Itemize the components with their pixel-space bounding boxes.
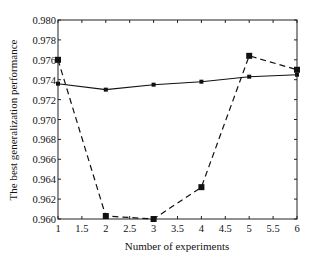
y-tick-label: 0.966 [32,154,56,165]
x-tick-label: 1.5 [75,223,88,234]
x-ticks: 11.522.533.544.555.56 [55,20,299,234]
dashed-series-point [151,216,157,222]
x-tick-label: 2 [103,223,108,234]
x-tick-label: 5 [247,223,252,234]
x-tick-label: 5.5 [267,223,280,234]
solid-series-point [104,88,108,92]
plot-frame [58,20,297,219]
x-tick-label: 4.5 [219,223,232,234]
y-axis-title: The best generalization performance [7,39,19,200]
solid-series-point [56,82,60,86]
dashed-series-point [246,53,252,59]
dashed-series-line [58,56,297,219]
x-tick-label: 1 [55,223,60,234]
y-tick-label: 0.978 [32,35,56,46]
y-tick-label: 0.974 [32,75,56,86]
dashed-series-point [198,184,204,190]
x-tick-label: 6 [294,223,299,234]
x-tick-label: 2.5 [123,223,136,234]
x-tick-label: 3.5 [171,223,184,234]
y-tick-label: 0.972 [32,95,56,106]
dashed-series-point [103,213,109,219]
axes [58,20,297,219]
x-tick-label: 4 [199,223,205,234]
solid-series-point [199,80,203,84]
series-group [55,53,300,222]
y-tick-label: 0.968 [32,134,56,145]
solid-series-point [247,75,251,79]
x-tick-label: 3 [151,223,156,234]
y-tick-label: 0.970 [32,115,56,126]
y-tick-label: 0.964 [32,174,56,185]
solid-series-point [152,83,156,87]
y-tick-label: 0.960 [32,214,56,225]
solid-series-point [295,73,299,77]
y-tick-label: 0.976 [32,55,56,66]
x-axis-title: Number of experiments [125,240,229,252]
solid-series-line [58,75,297,90]
y-ticks: 0.9600.9620.9640.9660.9680.9700.9720.974… [32,15,297,225]
dashed-series-point [55,57,61,63]
y-tick-label: 0.962 [32,194,56,205]
dashed-series-point [294,67,300,73]
line-chart: 11.522.533.544.555.56 0.9600.9620.9640.9… [0,0,315,270]
y-tick-label: 0.980 [32,15,56,26]
